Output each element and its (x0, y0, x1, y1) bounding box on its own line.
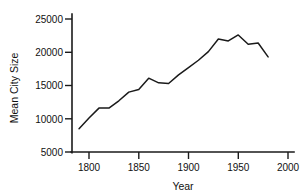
data-series-line (79, 35, 268, 129)
y-axis-tick-marks (65, 19, 72, 152)
x-tick-label: 1950 (227, 162, 250, 173)
line-chart-canvas: 25000 20000 15000 10000 5000 1800 1850 1… (0, 0, 308, 195)
x-tick-label: 2000 (277, 162, 300, 173)
y-tick-label: 20000 (35, 47, 63, 58)
x-tick-label: 1850 (128, 162, 151, 173)
x-tick-label: 1900 (177, 162, 200, 173)
x-tick-label: 1800 (78, 162, 101, 173)
y-tick-label: 10000 (35, 114, 63, 125)
y-tick-label: 5000 (41, 147, 64, 158)
y-tick-label: 15000 (35, 80, 63, 91)
y-axis-title: Mean City Size (8, 53, 20, 124)
y-axis-tick-labels: 25000 20000 15000 10000 5000 (35, 14, 63, 158)
x-axis-tick-labels: 1800 1850 1900 1950 2000 (78, 162, 300, 173)
x-axis-title: Year (172, 180, 194, 192)
chart-figure: 25000 20000 15000 10000 5000 1800 1850 1… (0, 0, 308, 195)
y-tick-label: 25000 (35, 14, 63, 25)
x-axis-tick-marks (89, 152, 288, 159)
